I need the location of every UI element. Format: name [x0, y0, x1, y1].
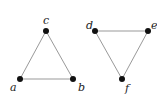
node-c	[43, 28, 49, 34]
edge-e-f	[122, 31, 148, 79]
node-b	[70, 76, 76, 82]
edge-b-c	[46, 31, 73, 79]
node-label-c: c	[43, 14, 49, 27]
node-label-f: f	[124, 82, 131, 95]
node-a	[17, 76, 23, 82]
node-label-b: b	[78, 81, 85, 94]
node-label-a: a	[10, 81, 17, 94]
edge-c-a	[20, 31, 46, 79]
edge-f-d	[95, 31, 122, 79]
node-label-d: d	[86, 19, 93, 32]
node-label-e: e	[151, 19, 157, 32]
graph-diagram: abcdef	[0, 0, 157, 96]
